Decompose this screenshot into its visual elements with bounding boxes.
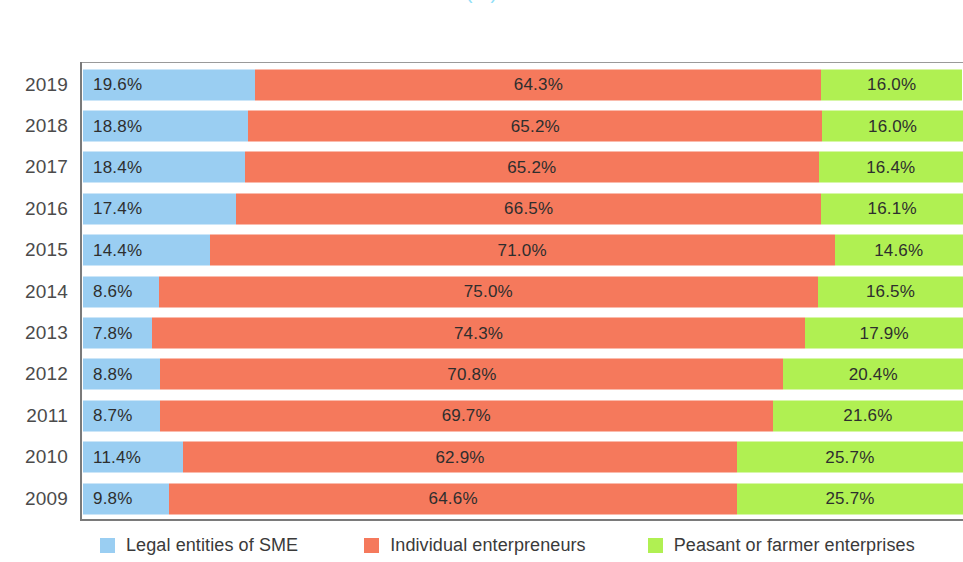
bar-segment-value-label: 7.8% (93, 323, 133, 343)
bar-segment-value-label: 75.0% (464, 282, 513, 302)
bar-segment-value-label: 18.8% (93, 116, 142, 136)
year-axis-label: 2018 (0, 115, 68, 137)
bar-segment-individual-entrepreneurs: 70.8% (160, 359, 783, 390)
bar-segment-legal-entities: 8.6% (83, 276, 159, 307)
legend-label: Individual enterpreneurs (390, 535, 586, 556)
chart-title: (%) (0, 0, 963, 4)
chart-legend: Legal entities of SMEIndividual enterpre… (0, 528, 963, 562)
bar-row: 20128.8%70.8%20.4% (0, 354, 963, 395)
bar-segment-peasant-farmer-enterprises: 20.4% (783, 359, 963, 390)
stacked-bar: 18.8%65.2%16.0% (83, 111, 963, 142)
axis-line-bottom (80, 519, 963, 521)
bar-segment-legal-entities: 8.7% (83, 400, 160, 431)
bar-segment-legal-entities: 7.8% (83, 318, 152, 349)
stacked-bar: 18.4%65.2%16.4% (83, 152, 963, 183)
bar-segment-value-label: 19.6% (93, 75, 142, 95)
bar-segment-value-label: 16.0% (867, 75, 916, 95)
axis-line-top (80, 62, 963, 63)
bar-segment-peasant-farmer-enterprises: 25.7% (737, 483, 963, 514)
bar-segment-value-label: 71.0% (498, 240, 547, 260)
bar-segment-value-label: 11.4% (93, 447, 141, 467)
legend-swatch-icon (100, 538, 115, 553)
bar-row: 201718.4%65.2%16.4% (0, 147, 963, 188)
legend-swatch-icon (648, 538, 663, 553)
bar-segment-individual-entrepreneurs: 65.2% (245, 152, 819, 183)
year-axis-label: 2014 (0, 281, 68, 303)
bar-segment-value-label: 14.4% (93, 240, 142, 260)
bar-segment-value-label: 25.7% (825, 447, 874, 467)
bar-row: 201919.6%64.3%16.0% (0, 64, 963, 105)
bar-segment-legal-entities: 17.4% (83, 193, 236, 224)
bar-row: 201011.4%62.9%25.7% (0, 437, 963, 478)
bar-segment-legal-entities: 8.8% (83, 359, 160, 390)
year-axis-label: 2011 (0, 405, 68, 427)
bar-segment-value-label: 18.4% (93, 157, 142, 177)
bar-segment-peasant-farmer-enterprises: 16.4% (819, 152, 963, 183)
bar-row: 20148.6%75.0%16.5% (0, 271, 963, 312)
stacked-bar: 8.6%75.0%16.5% (83, 276, 963, 307)
stacked-bar: 11.4%62.9%25.7% (83, 442, 963, 473)
stacked-bar: 8.8%70.8%20.4% (83, 359, 963, 390)
year-axis-label: 2010 (0, 446, 68, 468)
bar-segment-value-label: 16.5% (866, 282, 915, 302)
bar-segment-individual-entrepreneurs: 71.0% (210, 235, 835, 266)
plot-area: 201919.6%64.3%16.0%201818.8%65.2%16.0%20… (0, 57, 963, 523)
bar-segment-legal-entities: 19.6% (83, 69, 255, 100)
stacked-bar: 8.7%69.7%21.6% (83, 400, 963, 431)
bar-row: 201818.8%65.2%16.0% (0, 105, 963, 146)
bar-row: 201617.4%66.5%16.1% (0, 188, 963, 229)
bar-rows-container: 201919.6%64.3%16.0%201818.8%65.2%16.0%20… (0, 64, 963, 519)
bar-segment-value-label: 8.7% (93, 406, 133, 426)
bar-segment-peasant-farmer-enterprises: 14.6% (835, 235, 963, 266)
year-axis-label: 2009 (0, 488, 68, 510)
bar-row: 20118.7%69.7%21.6% (0, 395, 963, 436)
bar-segment-individual-entrepreneurs: 64.6% (169, 483, 737, 514)
bar-segment-legal-entities: 14.4% (83, 235, 210, 266)
bar-segment-individual-entrepreneurs: 75.0% (159, 276, 818, 307)
bar-row: 20137.8%74.3%17.9% (0, 312, 963, 353)
year-axis-label: 2012 (0, 363, 68, 385)
bar-segment-legal-entities: 11.4% (83, 442, 183, 473)
bar-row: 20099.8%64.6%25.7% (0, 478, 963, 519)
bar-segment-individual-entrepreneurs: 74.3% (152, 318, 806, 349)
bar-segment-value-label: 8.8% (93, 364, 133, 384)
bar-segment-peasant-farmer-enterprises: 17.9% (805, 318, 963, 349)
bar-segment-individual-entrepreneurs: 69.7% (160, 400, 773, 431)
year-axis-label: 2016 (0, 198, 68, 220)
bar-segment-value-label: 74.3% (454, 323, 503, 343)
bar-segment-value-label: 65.2% (511, 116, 560, 136)
bar-segment-legal-entities: 18.8% (83, 111, 248, 142)
bar-segment-value-label: 17.4% (93, 199, 142, 219)
bar-segment-peasant-farmer-enterprises: 16.5% (818, 276, 963, 307)
legend-item[interactable]: Individual enterpreneurs (364, 535, 586, 556)
bar-segment-value-label: 21.6% (843, 406, 892, 426)
year-axis-label: 2017 (0, 156, 68, 178)
legend-item[interactable]: Peasant or farmer enterprises (648, 535, 915, 556)
stacked-bar: 17.4%66.5%16.1% (83, 193, 963, 224)
stacked-bar: 19.6%64.3%16.0% (83, 69, 963, 100)
stacked-bar: 14.4%71.0%14.6% (83, 235, 963, 266)
bar-segment-value-label: 70.8% (447, 364, 496, 384)
bar-segment-peasant-farmer-enterprises: 16.1% (821, 193, 963, 224)
bar-segment-peasant-farmer-enterprises: 16.0% (822, 111, 963, 142)
bar-segment-peasant-farmer-enterprises: 25.7% (737, 442, 963, 473)
bar-segment-value-label: 16.4% (866, 157, 915, 177)
bar-segment-value-label: 8.6% (93, 282, 133, 302)
bar-segment-legal-entities: 18.4% (83, 152, 245, 183)
bar-segment-value-label: 20.4% (849, 364, 898, 384)
bar-segment-peasant-farmer-enterprises: 16.0% (821, 69, 962, 100)
bar-row: 201514.4%71.0%14.6% (0, 230, 963, 271)
bar-segment-value-label: 64.3% (514, 75, 563, 95)
bar-segment-value-label: 69.7% (442, 406, 491, 426)
bar-segment-value-label: 65.2% (507, 157, 556, 177)
bar-segment-value-label: 64.6% (429, 489, 478, 509)
bar-segment-individual-entrepreneurs: 65.2% (248, 111, 822, 142)
stacked-bar: 9.8%64.6%25.7% (83, 483, 963, 514)
stacked-bar: 7.8%74.3%17.9% (83, 318, 963, 349)
bar-segment-value-label: 17.9% (860, 323, 909, 343)
legend-item[interactable]: Legal entities of SME (100, 535, 298, 556)
bar-segment-value-label: 14.6% (874, 240, 923, 260)
bar-segment-value-label: 25.7% (825, 489, 874, 509)
bar-segment-value-label: 16.1% (868, 199, 917, 219)
bar-segment-peasant-farmer-enterprises: 21.6% (773, 400, 963, 431)
